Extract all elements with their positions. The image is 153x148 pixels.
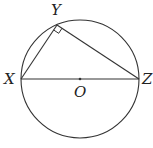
segment-yz xyxy=(57,25,139,79)
label-z: Z xyxy=(141,70,153,88)
label-y: Y xyxy=(51,1,63,19)
label-o: O xyxy=(74,83,86,101)
geometry-diagram: X Y Z O xyxy=(0,0,153,148)
center-point xyxy=(79,78,82,81)
segment-xy xyxy=(21,25,57,79)
label-x: X xyxy=(3,70,16,88)
